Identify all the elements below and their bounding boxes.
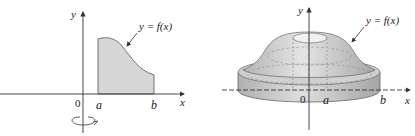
right-a-label: a — [323, 93, 329, 107]
right-origin-label: 0 — [300, 93, 306, 105]
left-y-label: y — [70, 8, 76, 20]
right-x-label: x — [404, 94, 410, 106]
left-a-label: a — [96, 98, 102, 112]
right-solid: y y = f(x) 0 a b x — [222, 4, 410, 130]
right-curve-label: y = f(x) — [365, 14, 399, 27]
left-x-label: x — [179, 96, 185, 108]
curve-leader-line-right — [352, 27, 364, 42]
right-b-label: b — [380, 93, 386, 107]
inner-hole-top — [293, 33, 327, 43]
left-graph: y y = f(x) 0 a b x — [0, 8, 185, 133]
solid-of-revolution-diagram: y y = f(x) 0 a b x y y = f(x) 0 a b x — [0, 0, 415, 136]
left-origin-label: 0 — [75, 97, 81, 109]
curve-leader-line — [127, 33, 137, 46]
right-y-label: y — [297, 4, 303, 16]
left-b-label: b — [151, 98, 157, 112]
shaded-region — [98, 38, 154, 94]
rotation-arrow-icon — [72, 117, 98, 125]
left-curve-label: y = f(x) — [138, 20, 172, 33]
